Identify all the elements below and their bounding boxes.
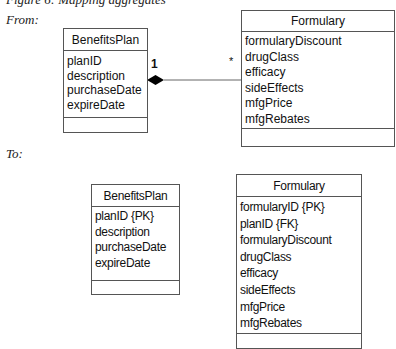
- operations-compartment: [242, 129, 394, 146]
- composition-diamond-icon: [147, 75, 164, 85]
- class-name: Formulary: [242, 11, 394, 32]
- attribute: sideEffects: [245, 81, 394, 97]
- attribute: formularyID {PK}: [240, 199, 361, 216]
- attribute-list: formularyID {PK} planID {FK} formularyDi…: [237, 197, 361, 334]
- class-name: BenefitsPlan: [92, 185, 179, 207]
- attribute: purchaseDate: [67, 83, 147, 98]
- class-formulary-from: Formulary formularyDiscount drugClass ef…: [241, 10, 395, 147]
- attribute-list: formularyDiscount drugClass efficacy sid…: [242, 32, 394, 129]
- attribute: formularyDiscount: [245, 34, 394, 50]
- attribute: expireDate: [67, 98, 147, 113]
- attribute: description: [67, 69, 147, 84]
- operations-compartment: [92, 281, 179, 294]
- attribute: expireDate: [95, 256, 179, 272]
- class-name: BenefitsPlan: [64, 29, 147, 51]
- attribute: efficacy: [240, 265, 361, 282]
- class-name: Formulary: [237, 175, 361, 197]
- attribute: purchaseDate: [95, 240, 179, 256]
- class-benefitsplan-from: BenefitsPlan planID description purchase…: [63, 28, 148, 133]
- attribute: planID: [67, 54, 147, 69]
- operations-compartment: [237, 334, 361, 348]
- attribute: description: [95, 225, 179, 241]
- attribute: mfgPrice: [245, 96, 394, 112]
- attribute-list: planID description purchaseDate expireDa…: [64, 51, 147, 118]
- attribute: formularyDiscount: [240, 232, 361, 249]
- attribute: mfgRebates: [245, 112, 394, 128]
- attribute: sideEffects: [240, 282, 361, 299]
- attribute: planID {FK}: [240, 216, 361, 233]
- from-label: From:: [6, 12, 39, 28]
- attribute: planID {PK}: [95, 209, 179, 225]
- figure-title: Figure 6: Mapping aggregates: [6, 0, 166, 8]
- multiplicity-one: 1: [151, 57, 158, 71]
- attribute: mfgPrice: [240, 299, 361, 316]
- multiplicity-many: *: [229, 55, 233, 67]
- attribute: mfgRebates: [240, 315, 361, 332]
- operations-compartment: [64, 118, 147, 132]
- attribute: drugClass: [245, 50, 394, 66]
- to-label: To:: [6, 146, 23, 162]
- attribute: efficacy: [245, 65, 394, 81]
- class-benefitsplan-to: BenefitsPlan planID {PK} description pur…: [91, 184, 180, 295]
- attribute: drugClass: [240, 249, 361, 266]
- class-formulary-to: Formulary formularyID {PK} planID {FK} f…: [236, 174, 362, 349]
- attribute-list: planID {PK} description purchaseDate exp…: [92, 207, 179, 281]
